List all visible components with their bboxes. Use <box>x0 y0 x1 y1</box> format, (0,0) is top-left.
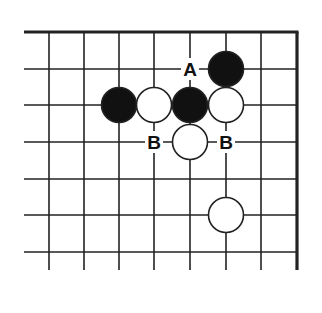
point-label-a: A <box>183 59 197 80</box>
black-stone <box>209 52 244 87</box>
point-label-b: B <box>219 132 233 153</box>
black-stone <box>173 88 208 123</box>
point-label-b: B <box>147 132 161 153</box>
white-stone <box>209 88 244 123</box>
white-stone <box>209 198 244 233</box>
white-stone <box>137 88 172 123</box>
black-stone <box>102 88 137 123</box>
white-stone <box>173 125 208 160</box>
go-board-diagram: ABB <box>0 0 322 313</box>
